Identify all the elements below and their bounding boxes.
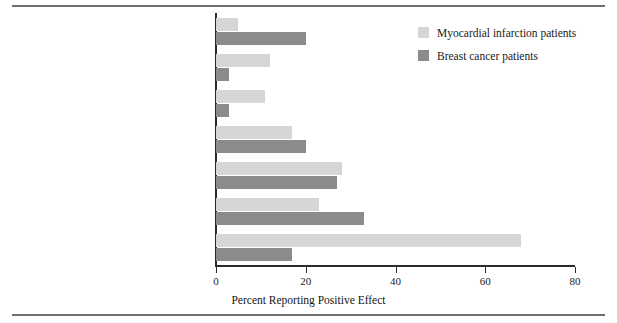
legend-swatch-dark-gray — [418, 50, 429, 61]
legend-swatch-light-gray — [418, 27, 429, 38]
x-tick-80 — [575, 267, 576, 273]
legend-label-myocardial-infarction: Myocardial infarction patients — [437, 27, 576, 39]
x-tick-label-40: 40 — [390, 275, 401, 287]
x-tick-20 — [306, 267, 307, 273]
x-axis-title: Percent Reporting Positive Effect — [0, 294, 617, 306]
x-tick-0 — [216, 267, 217, 273]
x-tick-label-0: 0 — [213, 275, 219, 287]
bar-myocardial-infarction — [216, 162, 342, 175]
bar-breast-cancer — [216, 248, 292, 261]
bar-breast-cancer — [216, 212, 364, 225]
bar-myocardial-infarction — [216, 234, 521, 247]
figure-page: 020406080 Improved empathyGreater knowle… — [0, 0, 617, 323]
bar-group: A change in personal life priorities — [216, 122, 575, 158]
x-tick-label-80: 80 — [570, 275, 581, 287]
bar-breast-cancer — [216, 176, 337, 189]
legend-label-breast-cancer: Breast cancer patients — [437, 50, 538, 62]
bar-breast-cancer — [216, 68, 229, 81]
x-tick-label-20: 20 — [300, 275, 311, 287]
bar-group: Greater appreciation of health and life — [216, 157, 575, 193]
bar-group: Healthy lifestyle change — [216, 229, 575, 265]
bar-myocardial-infarction — [216, 90, 265, 103]
x-tick-label-60: 60 — [480, 275, 491, 287]
bar-breast-cancer — [216, 32, 306, 45]
bar-myocardial-infarction — [216, 18, 238, 31]
bar-myocardial-infarction — [216, 126, 292, 139]
bar-group: A second chance — [216, 86, 575, 122]
horizontal-bar-chart: 020406080 Improved empathyGreater knowle… — [0, 0, 617, 323]
bar-myocardial-infarction — [216, 198, 319, 211]
legend-item-myocardial-infarction: Myocardial infarction patients — [418, 27, 576, 39]
bar-myocardial-infarction — [216, 54, 270, 67]
bar-breast-cancer — [216, 104, 229, 117]
bottom-rule — [12, 314, 605, 316]
bar-group: Improved close relationships — [216, 193, 575, 229]
x-tick-60 — [485, 267, 486, 273]
x-tick-40 — [396, 267, 397, 273]
legend-item-breast-cancer: Breast cancer patients — [418, 50, 538, 62]
bar-breast-cancer — [216, 140, 306, 153]
